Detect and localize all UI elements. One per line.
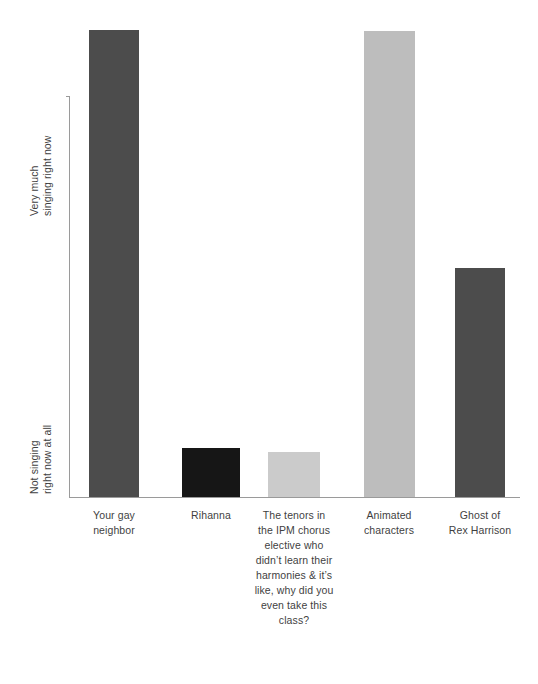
category-label-4-line-1: Animated <box>344 508 434 523</box>
bar-5 <box>455 268 505 497</box>
y-axis-label-top: Very much singing right now <box>28 136 54 217</box>
category-label-5-line-1: Ghost of <box>435 508 525 523</box>
bar-chart: Very much singing right now Not singing … <box>0 0 538 684</box>
category-label-1: Your gayneighbor <box>69 508 159 538</box>
y-axis-label-top-line2: singing right now <box>41 136 54 217</box>
category-label-3-line-6: like, why did you <box>243 583 345 598</box>
bar-3 <box>268 452 320 497</box>
y-axis-line <box>69 96 70 497</box>
bar-4 <box>364 31 415 497</box>
category-label-5: Ghost ofRex Harrison <box>435 508 525 538</box>
y-axis-label-bottom: Not singing right now at all <box>28 425 54 494</box>
bar-1 <box>89 30 139 497</box>
y-axis-label-bottom-line2: right now at all <box>41 425 54 494</box>
category-label-4-line-2: characters <box>344 523 434 538</box>
category-label-3-line-2: the IPM chorus <box>243 523 345 538</box>
y-axis-label-top-line1: Very much <box>28 136 41 217</box>
category-label-3-line-7: even take this <box>243 598 345 613</box>
category-label-3-line-4: didn’t learn their <box>243 553 345 568</box>
category-label-1-line-1: Your gay <box>69 508 159 523</box>
category-label-3-line-5: harmonies & it’s <box>243 568 345 583</box>
category-label-3-line-3: elective who <box>243 538 345 553</box>
x-axis-line <box>69 497 520 498</box>
y-axis-top-tick <box>66 96 70 97</box>
category-label-4: Animatedcharacters <box>344 508 434 538</box>
category-label-3-line-8: class? <box>243 613 345 628</box>
category-label-5-line-2: Rex Harrison <box>435 523 525 538</box>
bar-2 <box>182 448 240 497</box>
y-axis-label-bottom-line1: Not singing <box>28 425 41 494</box>
category-label-3: The tenors inthe IPM choruselective whod… <box>243 508 345 628</box>
category-label-1-line-2: neighbor <box>69 523 159 538</box>
category-label-3-line-1: The tenors in <box>243 508 345 523</box>
